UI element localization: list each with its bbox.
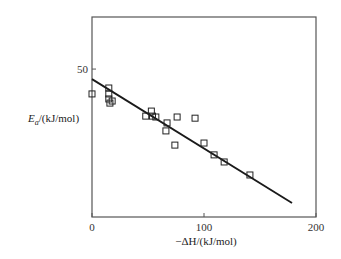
data-point-square: [172, 142, 178, 148]
y-tick-label: 50: [77, 63, 89, 75]
scatter-chart: 010020050 −ΔH/(kJ/mol) Ea/(kJ/mol): [0, 0, 341, 259]
data-point-square: [201, 140, 207, 146]
x-axis-label: −ΔH/(kJ/mol): [175, 235, 237, 248]
x-tick-label: 0: [89, 221, 95, 233]
data-point-square: [164, 120, 170, 126]
data-point-square: [89, 91, 95, 97]
data-point-square: [163, 128, 169, 134]
x-tick-label: 200: [308, 221, 325, 233]
data-point-square: [174, 114, 180, 120]
data-point-square: [107, 100, 113, 106]
data-point-square: [247, 172, 253, 178]
plot-frame: [92, 17, 316, 217]
data-point-square: [192, 115, 198, 121]
fit-line: [92, 79, 292, 203]
x-tick-label: 100: [196, 221, 213, 233]
regression-line: [92, 79, 292, 203]
data-point-square: [211, 152, 217, 158]
data-point-square: [106, 85, 112, 91]
data-point-square: [221, 159, 227, 165]
data-point-square: [153, 114, 159, 120]
y-axis-label: Ea/(kJ/mol): [27, 112, 79, 127]
tick-labels: 010020050: [77, 63, 325, 233]
y-axis-label-rest: /(kJ/mol): [39, 112, 80, 125]
